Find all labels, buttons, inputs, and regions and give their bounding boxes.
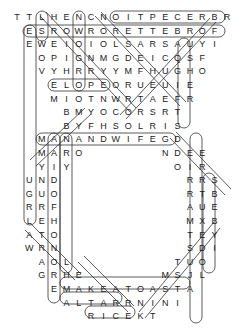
- grid-letter[interactable]: M: [97, 52, 109, 64]
- grid-letter[interactable]: E: [135, 52, 147, 64]
- grid-letter[interactable]: A: [23, 229, 35, 241]
- grid-letter[interactable]: R: [147, 120, 159, 132]
- grid-letter[interactable]: W: [110, 93, 122, 105]
- grid-letter[interactable]: T: [172, 106, 184, 118]
- grid-letter[interactable]: O: [48, 256, 60, 268]
- grid-letter[interactable]: S: [110, 120, 122, 132]
- grid-letter[interactable]: T: [36, 229, 48, 241]
- grid-letter[interactable]: R: [184, 93, 196, 105]
- grid-letter[interactable]: E: [97, 79, 109, 91]
- grid-letter[interactable]: U: [36, 188, 48, 200]
- grid-letter[interactable]: T: [147, 310, 159, 322]
- grid-letter[interactable]: E: [184, 11, 196, 23]
- grid-letter[interactable]: S: [122, 38, 134, 50]
- grid-letter[interactable]: I: [184, 161, 196, 173]
- grid-letter[interactable]: H: [48, 215, 60, 227]
- grid-letter[interactable]: T: [196, 188, 208, 200]
- grid-letter[interactable]: R: [110, 25, 122, 37]
- grid-letter[interactable]: O: [73, 79, 85, 91]
- grid-letter[interactable]: E: [147, 133, 159, 145]
- grid-letter[interactable]: O: [48, 229, 60, 241]
- grid-letter[interactable]: L: [60, 256, 72, 268]
- grid-letter[interactable]: O: [196, 256, 208, 268]
- grid-letter[interactable]: Y: [110, 65, 122, 77]
- grid-letter[interactable]: Y: [36, 161, 48, 173]
- grid-letter[interactable]: O: [73, 38, 85, 50]
- grid-letter[interactable]: Y: [85, 106, 97, 118]
- grid-letter[interactable]: I: [85, 38, 97, 50]
- grid-letter[interactable]: B: [172, 25, 184, 37]
- grid-letter[interactable]: N: [85, 52, 97, 64]
- grid-letter[interactable]: Y: [209, 229, 221, 241]
- grid-letter[interactable]: S: [147, 106, 159, 118]
- grid-letter[interactable]: U: [135, 79, 147, 91]
- grid-letter[interactable]: O: [135, 283, 147, 295]
- grid-letter[interactable]: W: [73, 25, 85, 37]
- grid-letter[interactable]: E: [73, 269, 85, 281]
- grid-letter[interactable]: G: [110, 52, 122, 64]
- grid-letter[interactable]: I: [97, 310, 109, 322]
- grid-letter[interactable]: G: [172, 65, 184, 77]
- grid-letter[interactable]: R: [159, 106, 171, 118]
- grid-letter[interactable]: G: [159, 133, 171, 145]
- grid-letter[interactable]: T: [172, 283, 184, 295]
- grid-letter[interactable]: W: [110, 133, 122, 145]
- grid-letter[interactable]: G: [23, 188, 35, 200]
- grid-letter[interactable]: A: [184, 283, 196, 295]
- grid-letter[interactable]: N: [97, 11, 109, 23]
- grid-letter[interactable]: I: [60, 38, 72, 50]
- grid-letter[interactable]: S: [159, 38, 171, 50]
- grid-letter[interactable]: T: [23, 11, 35, 23]
- grid-letter[interactable]: U: [196, 201, 208, 213]
- grid-letter[interactable]: D: [196, 242, 208, 254]
- grid-letter[interactable]: A: [184, 201, 196, 213]
- grid-letter[interactable]: T: [85, 297, 97, 309]
- grid-letter[interactable]: W: [23, 242, 35, 254]
- grid-letter[interactable]: S: [36, 25, 48, 37]
- grid-letter[interactable]: A: [60, 297, 72, 309]
- grid-letter[interactable]: L: [36, 11, 48, 23]
- grid-letter[interactable]: R: [85, 310, 97, 322]
- grid-letter[interactable]: E: [209, 201, 221, 213]
- grid-letter[interactable]: H: [60, 269, 72, 281]
- grid-letter[interactable]: S: [172, 120, 184, 132]
- grid-letter[interactable]: O: [97, 25, 109, 37]
- grid-letter[interactable]: H: [60, 65, 72, 77]
- grid-letter[interactable]: A: [73, 133, 85, 145]
- grid-letter[interactable]: A: [135, 38, 147, 50]
- grid-letter[interactable]: I: [147, 52, 159, 64]
- grid-letter[interactable]: F: [135, 65, 147, 77]
- grid-letter[interactable]: O: [73, 93, 85, 105]
- grid-letter[interactable]: A: [97, 297, 109, 309]
- grid-letter[interactable]: R: [196, 11, 208, 23]
- grid-letter[interactable]: U: [23, 174, 35, 186]
- grid-letter[interactable]: U: [184, 256, 196, 268]
- grid-letter[interactable]: T: [135, 93, 147, 105]
- grid-letter[interactable]: R: [110, 297, 122, 309]
- grid-letter[interactable]: P: [48, 52, 60, 64]
- grid-letter[interactable]: N: [85, 133, 97, 145]
- grid-letter[interactable]: M: [159, 269, 171, 281]
- grid-letter[interactable]: J: [184, 269, 196, 281]
- grid-letter[interactable]: N: [60, 133, 72, 145]
- grid-letter[interactable]: M: [36, 133, 48, 145]
- grid-letter[interactable]: H: [184, 65, 196, 77]
- grid-letter[interactable]: B: [60, 120, 72, 132]
- grid-letter[interactable]: A: [172, 38, 184, 50]
- grid-letter[interactable]: R: [196, 174, 208, 186]
- grid-letter[interactable]: M: [73, 106, 85, 118]
- grid-letter[interactable]: N: [48, 242, 60, 254]
- grid-letter[interactable]: Y: [196, 38, 208, 50]
- grid-letter[interactable]: X: [196, 215, 208, 227]
- grid-letter[interactable]: E: [23, 38, 35, 50]
- grid-letter[interactable]: M: [48, 93, 60, 105]
- grid-letter[interactable]: E: [196, 147, 208, 159]
- grid-letter[interactable]: R: [196, 161, 208, 173]
- grid-letter[interactable]: T: [184, 229, 196, 241]
- grid-letter[interactable]: E: [159, 25, 171, 37]
- grid-letter[interactable]: T: [122, 283, 134, 295]
- grid-letter[interactable]: K: [85, 283, 97, 295]
- grid-letter[interactable]: T: [135, 11, 147, 23]
- grid-letter[interactable]: L: [23, 215, 35, 227]
- grid-letter[interactable]: A: [48, 147, 60, 159]
